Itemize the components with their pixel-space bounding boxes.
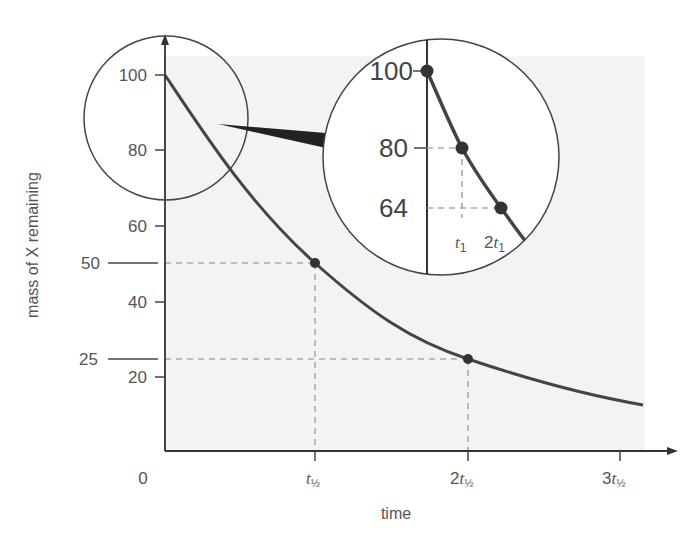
x-axis-title: time [381, 505, 411, 522]
x-ticks [315, 451, 620, 461]
y-tick-60: 60 [128, 217, 147, 236]
inset-point-64 [495, 202, 508, 215]
y-tick-20: 20 [128, 368, 147, 387]
point-two-half-lives [463, 354, 473, 364]
x-tick-t-half: t½ [306, 469, 320, 489]
x-tick-2t-half: 2t½ [450, 469, 473, 489]
y-marker-50: 50 [81, 254, 100, 273]
x-tick-0: 0 [138, 469, 147, 488]
inset-point-80 [456, 142, 469, 155]
y-tick-100: 100 [119, 66, 147, 85]
x-axis-arrow-icon [667, 447, 678, 455]
x-tick-3t-half: 3t½ [602, 469, 625, 489]
inset-y-64: 64 [379, 193, 408, 223]
y-marker-25: 25 [79, 350, 98, 369]
inset-y-80: 80 [379, 133, 408, 163]
y-tick-40: 40 [128, 293, 147, 312]
y-axis-title: mass of X remaining [24, 172, 41, 318]
inset-y-100: 100 [370, 56, 413, 86]
decay-chart: 100 80 60 50 40 25 20 0 t½ 2t½ 3t½ time … [0, 0, 695, 542]
point-half-life [310, 258, 320, 268]
inset-point-100 [421, 65, 434, 78]
y-tick-80: 80 [128, 141, 147, 160]
